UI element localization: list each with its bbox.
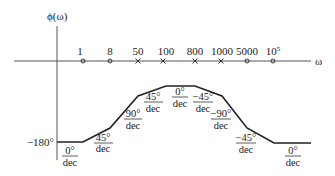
svg-text:dec: dec (96, 143, 111, 154)
marker-zero-8: 8 (107, 45, 113, 63)
y-axis-label: ϕ(ω) (47, 10, 68, 23)
slope-label-3: 90° dec (124, 108, 142, 131)
marker-zero-5000: 5000 (236, 45, 259, 63)
x-axis-label: ω (315, 55, 322, 67)
svg-text:dec: dec (173, 98, 188, 109)
svg-text:800: 800 (187, 45, 204, 57)
slope-label-2: 45° dec (94, 132, 113, 154)
slope-label-8: −45° dec (236, 132, 257, 155)
svg-text:45°: 45° (146, 91, 161, 102)
svg-text:dec: dec (214, 120, 229, 131)
slope-label-1: 0° dec (62, 145, 78, 168)
svg-text:90°: 90° (126, 108, 141, 119)
slope-label-4: 45° dec (144, 91, 163, 114)
svg-text:50: 50 (133, 45, 145, 57)
svg-text:dec: dec (126, 120, 141, 131)
svg-text:5000: 5000 (236, 45, 259, 57)
slope-label-9: 0° dec (285, 145, 301, 168)
marker-zero-1: 1 (77, 45, 85, 63)
svg-text:8: 8 (107, 45, 113, 57)
slope-label-7: −90° dec (211, 108, 232, 131)
svg-text:45°: 45° (96, 132, 111, 143)
svg-text:0°: 0° (288, 145, 297, 156)
svg-text:105: 105 (266, 45, 281, 57)
svg-text:1000: 1000 (211, 45, 234, 57)
svg-text:−45°: −45° (193, 91, 214, 102)
svg-text:dec: dec (239, 144, 254, 155)
svg-text:0°: 0° (175, 86, 184, 97)
svg-text:0°: 0° (65, 145, 74, 156)
svg-text:−90°: −90° (211, 108, 232, 119)
svg-text:dec: dec (63, 157, 78, 168)
svg-text:dec: dec (286, 157, 301, 168)
slope-label-5: 0° dec (172, 86, 188, 109)
marker-zero-1e5: 105 (266, 45, 281, 63)
svg-text:1: 1 (77, 45, 83, 57)
svg-text:dec: dec (146, 103, 161, 114)
y-tick-label: −180° (27, 136, 54, 148)
svg-text:100: 100 (158, 45, 175, 57)
bode-phase-diagram: ϕ(ω) ω 1 8 50 100 800 1000 5000 105 −180… (0, 0, 335, 176)
svg-text:−45°: −45° (236, 132, 257, 143)
svg-text:dec: dec (196, 103, 211, 114)
